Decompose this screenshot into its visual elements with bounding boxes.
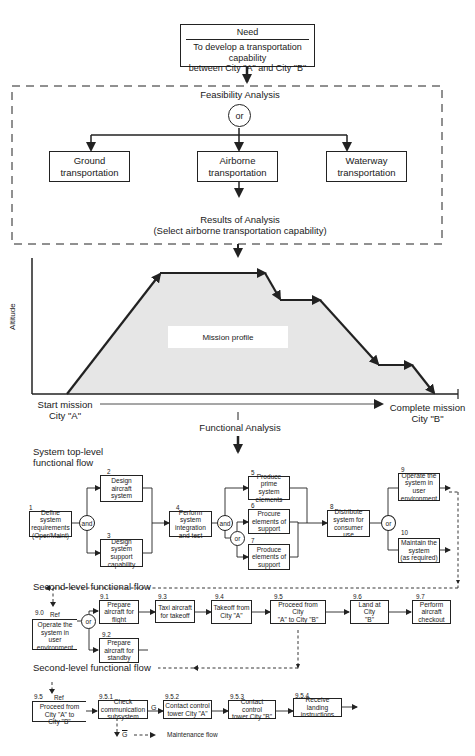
or-gate-support: or [230,531,245,546]
block-taxi-aircraft: Taxi aircraft for takeoff [155,600,195,623]
block-number: 10 [401,530,408,536]
block-distribute-system: Distribute system for consumer use [327,510,370,537]
block-define-system-requirements: Define system requirements (Oper/Maint) [29,511,72,537]
mission-profile-label: Mission profile [168,326,288,348]
go-label: G [151,704,156,711]
block-aircraft-checkout: Perform aircraft checkout [412,600,451,624]
results-of-analysis: Results of Analysis (Select airborne tra… [110,215,370,237]
or-gate-operate: or [381,515,396,531]
second-level-flow-title-a: Second-level functional flow [33,582,151,593]
complete-mission-label: Complete mission City "B" [380,403,475,425]
top-level-flow-title: System top-level functional flow [33,447,103,469]
block-maintain-system: Maintain the system (as required) [398,538,440,563]
block-produce-prime-elements: Produce prime system elements [248,476,290,500]
and-gate-2: and [217,515,233,531]
block-prepare-flight: Prepare aircraft for flight [99,600,139,624]
block-contact-tower-a: Contact control tower City "A" [163,700,212,719]
block-operate-system: Operate the system in user environment [398,473,440,501]
need-description: To develop a transportation capability b… [181,40,314,73]
nogo-label: G [122,731,127,738]
block-takeoff: Takeoff from City "A" [211,600,252,624]
block-perform-integration-test: Perform system integration and test [169,511,212,537]
airborne-transportation-block: Airborne transportation [197,151,278,182]
and-gate: and [79,515,95,531]
altitude-axis-label: Altitude [8,290,22,330]
or-gate-prepare: or [81,614,96,629]
ground-transportation-block: Ground transportation [49,151,130,182]
block-design-aircraft-system: Design aircraft system [100,475,143,502]
ref-tag: Ref [50,612,60,618]
block-prepare-standby: Prepare aircraft for standby [99,638,139,663]
need-block: Need To develop a transportation capabil… [180,24,315,67]
waterway-transportation-block: Waterway transportation [326,151,407,182]
block-land-city-b: Land at City "B" [350,600,389,624]
feasibility-or-gate: or [228,104,251,127]
block-check-communication: Check communication subsystem [98,700,148,719]
block-receive-landing: Receive landing instructions [293,698,342,717]
block-design-support-capability: Design system support capability [100,539,143,567]
maintenance-flow-legend: Maintenance flow [167,732,218,739]
second-level-flow-title-b: Second-level functional flow [33,663,151,674]
block-proceed-a-to-b: Proceed from City "A" to City "B" [270,600,326,624]
ref-number: 9.0 [35,610,44,616]
ref-number: 9.5 [34,694,43,700]
need-title: Need [186,25,309,40]
block-procure-support: Procure elements of support [248,509,290,534]
feasibility-title: Feasibility Analysis [160,90,320,101]
ref-proceed-a-to-b: Proceed from City "A" to City "B" [32,701,86,722]
functional-analysis-title: Functional Analysis [170,423,310,434]
ref-operate-system: Operate the system in user environment [32,619,77,650]
block-produce-support: Produce elements of support [248,544,290,570]
block-contact-tower-b: Contact control tower City "B" [228,700,276,719]
start-mission-label: Start mission City "A" [20,400,110,422]
